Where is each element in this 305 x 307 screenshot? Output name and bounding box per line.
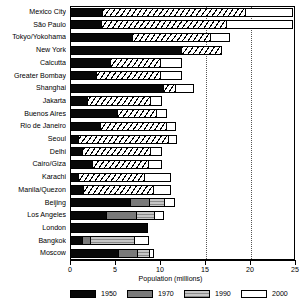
- bar-segment-2000: [168, 135, 177, 144]
- bar-row-label: Beijing: [0, 197, 66, 210]
- bar-segment-1990: [100, 122, 168, 131]
- bar-segment-1950: [70, 33, 133, 42]
- stacked-bar: [70, 236, 149, 245]
- bar-row: Beijing: [0, 197, 305, 210]
- bar-row: Mexico City: [0, 6, 305, 19]
- bar-segment-1950: [70, 46, 182, 55]
- swatch-2000: [241, 290, 267, 298]
- x-axis-tick-label: 0: [55, 266, 85, 274]
- stacked-bar: [70, 33, 230, 42]
- bar-segment-1970: [118, 249, 139, 258]
- bar-segment-2000: [148, 160, 162, 169]
- bar-segment-1990: [82, 147, 151, 156]
- bar-segment-1990: [117, 109, 158, 118]
- bar-segment-1990: [101, 20, 227, 29]
- x-axis-tick: [295, 260, 296, 265]
- bar-row: Bangkok: [0, 235, 305, 248]
- stacked-bar: [70, 84, 194, 93]
- bar-segment-1990: [163, 84, 177, 93]
- bar-segment-1970: [130, 198, 150, 207]
- x-axis-tick-label: 10: [145, 266, 175, 274]
- bar-segment-1950: [70, 71, 97, 80]
- bar-row-label: Mexico City: [0, 6, 66, 19]
- x-axis-tick-label: 20: [235, 266, 265, 274]
- bar-segment-1950: [70, 249, 119, 258]
- bar-row-label: New York: [0, 44, 66, 57]
- bar-row: Calcutta: [0, 57, 305, 70]
- legend-item-2000: 2000: [241, 290, 298, 298]
- bar-row-label: Tokyo/Yokohama: [0, 31, 66, 44]
- bar-row-label: Bangkok: [0, 235, 66, 248]
- bar-segment-1950: [70, 109, 118, 118]
- bar-segment-1950: [70, 8, 103, 17]
- bar-row: Greater Bombay: [0, 70, 305, 83]
- bar-segment-1950: [70, 185, 84, 194]
- stacked-bar: [70, 71, 182, 80]
- bar-rows: Mexico CitySão PauloTokyo/YokohamaNew Yo…: [0, 6, 305, 260]
- bar-segment-2000: [153, 185, 172, 194]
- bar-row: São Paulo: [0, 19, 305, 32]
- bar-segment-2000: [226, 20, 294, 29]
- bar-segment-2000: [210, 33, 230, 42]
- swatch-1950: [70, 290, 96, 298]
- stacked-bar: [70, 96, 162, 105]
- legend-label: 1990: [215, 290, 231, 298]
- bar-segment-1950: [70, 84, 164, 93]
- bar-row: Moscow: [0, 247, 305, 260]
- bar-segment-2000: [156, 109, 167, 118]
- bar-row: Delhi: [0, 146, 305, 159]
- x-axis-tick-label: 5: [100, 266, 130, 274]
- legend-item-1970: 1970: [127, 290, 184, 298]
- bar-segment-1950: [70, 198, 131, 207]
- chart-legend: 1950197019902000: [70, 287, 298, 301]
- bar-segment-2000: [154, 211, 164, 220]
- stacked-bar: [70, 8, 293, 17]
- bar-segment-1990: [110, 58, 160, 67]
- bar-row: Buenos Aires: [0, 108, 305, 121]
- x-axis-tick: [70, 260, 71, 265]
- bar-segment-2000: [160, 58, 183, 67]
- bar-row-label: London: [0, 222, 66, 235]
- bar-segment-1950: [70, 122, 101, 131]
- bar-row-label: Buenos Aires: [0, 108, 66, 121]
- bar-row-label: Jakarta: [0, 95, 66, 108]
- stacked-bar: [70, 173, 171, 182]
- x-axis-tick: [115, 260, 116, 265]
- stacked-bar: [70, 135, 177, 144]
- bar-segment-1950: [70, 160, 93, 169]
- legend-label: 1970: [158, 290, 174, 298]
- bar-row-label: Rio de Janeiro: [0, 120, 66, 133]
- bar-row-label: Moscow: [0, 247, 66, 260]
- bar-row: Cairo/Giza: [0, 158, 305, 171]
- bar-segment-2000: [150, 96, 163, 105]
- bar-row: Jakarta: [0, 95, 305, 108]
- bar-row: Karachi: [0, 171, 305, 184]
- bar-row-label: São Paulo: [0, 19, 66, 32]
- x-axis-tick-label: 25: [280, 266, 305, 274]
- bar-row-label: Manila/Quezon: [0, 184, 66, 197]
- bar-segment-1990: [87, 96, 151, 105]
- legend-label: 2000: [272, 290, 288, 298]
- bar-segment-2000: [245, 8, 293, 17]
- bar-segment-1950: [70, 223, 148, 232]
- bar-segment-1990: [136, 211, 155, 220]
- bar-row: Manila/Quezon: [0, 184, 305, 197]
- bar-segment-1990: [78, 135, 169, 144]
- legend-item-1990: 1990: [184, 290, 241, 298]
- bar-segment-2000: [144, 173, 172, 182]
- population-bar-chart: Mexico CitySão PauloTokyo/YokohamaNew Yo…: [0, 0, 305, 307]
- stacked-bar: [70, 249, 154, 258]
- bar-row-label: Calcutta: [0, 57, 66, 70]
- stacked-bar: [70, 109, 167, 118]
- bar-segment-1950: [70, 20, 102, 29]
- bar-row: Tokyo/Yokohama: [0, 31, 305, 44]
- stacked-bar: [70, 211, 164, 220]
- stacked-bar: [70, 198, 175, 207]
- bar-segment-2000: [175, 84, 194, 93]
- bar-segment-1950: [70, 211, 107, 220]
- bar-segment-1990: [132, 33, 211, 42]
- bar-row-label: Delhi: [0, 146, 66, 159]
- x-axis-line: [70, 260, 295, 261]
- stacked-bar: [70, 58, 182, 67]
- bar-row: Rio de Janeiro: [0, 120, 305, 133]
